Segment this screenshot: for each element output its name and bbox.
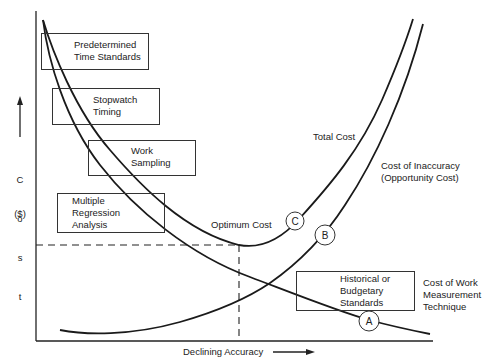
box-label: Work Sampling bbox=[131, 145, 171, 169]
box-stopwatch-timing: Stopwatch Timing bbox=[52, 88, 160, 125]
marker-b: B bbox=[315, 225, 335, 245]
optimum-cost-label: Optimum Cost bbox=[211, 219, 272, 231]
marker-a-label: A bbox=[366, 316, 373, 327]
box-predetermined-time-standards: Predetermined Time Standards bbox=[41, 33, 149, 70]
box-label: Historical or Budgetary Standards bbox=[340, 273, 390, 309]
y-axis-letter: t bbox=[14, 290, 26, 303]
right-arrow-icon bbox=[273, 349, 315, 355]
box-historical-budgetary-standards: Historical or Budgetary Standards bbox=[296, 271, 415, 311]
y-axis-label: C o s t bbox=[14, 147, 26, 316]
box-label: Predetermined Time Standards bbox=[74, 39, 141, 63]
box-label: Multiple Regression Analysis bbox=[72, 195, 120, 231]
up-arrow-icon bbox=[17, 96, 23, 137]
marker-c-label: C bbox=[291, 216, 298, 227]
box-label: Stopwatch Timing bbox=[93, 94, 137, 118]
box-work-sampling: Work Sampling bbox=[88, 140, 196, 176]
total-cost-label: Total Cost bbox=[313, 131, 355, 143]
y-axis-letter: s bbox=[14, 251, 26, 264]
box-multiple-regression-analysis: Multiple Regression Analysis bbox=[57, 193, 165, 233]
y-axis-letter: C bbox=[14, 173, 26, 186]
x-axis-label: Declining Accuracy bbox=[183, 346, 263, 358]
marker-c: C bbox=[286, 212, 304, 230]
y-axis-unit: ($) bbox=[9, 207, 31, 220]
cost-of-inaccuracy-label: Cost of Inaccuracy (Opportunity Cost) bbox=[381, 160, 460, 184]
marker-b-label: B bbox=[322, 230, 329, 241]
marker-a: A bbox=[359, 311, 379, 331]
work-measurement-cost-label: Cost of Work Measurement Technique bbox=[423, 277, 481, 313]
